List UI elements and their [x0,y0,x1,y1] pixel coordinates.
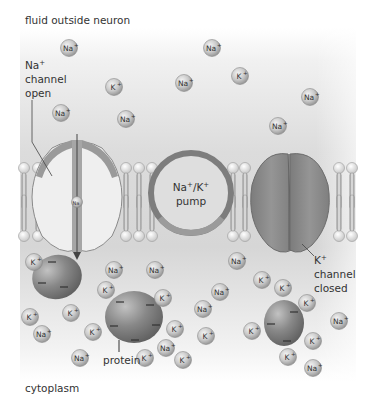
svg-text:+: + [189,77,194,83]
svg-text:+: + [315,91,320,97]
svg-text:+: + [217,42,222,48]
svg-text:+: + [283,120,288,126]
svg-text:+: + [131,113,136,119]
svg-text:+: + [225,286,230,292]
svg-text:Na: Na [149,266,159,275]
svg-text:+: + [74,307,79,313]
potassium-ion: K+ [85,324,102,341]
svg-text:+: + [186,354,191,360]
svg-text:Na: Na [74,354,84,363]
potassium-ion: K+ [299,295,316,312]
svg-text:+: + [318,362,323,368]
svg-text:+: + [66,107,71,113]
potassium-ion: K+ [22,309,39,326]
svg-text:+: + [265,274,270,280]
svg-text:+: + [178,323,183,329]
svg-text:+: + [171,342,176,348]
svg-text:Na: Na [63,44,73,53]
svg-text:+: + [148,352,153,358]
svg-text:Na: Na [120,115,130,124]
pump-label: Na+/K+ pump [168,180,214,208]
potassium-ion: K+ [175,352,192,369]
svg-text:+: + [33,311,38,317]
svg-text:+: + [242,255,247,261]
potassium-ion: K+ [167,321,184,338]
svg-text:+: + [37,256,42,262]
potassium-ion: K+ [244,323,261,340]
svg-text:+: + [243,70,248,76]
potassium-ion: K+ [198,328,215,345]
svg-text:Na: Na [333,317,343,326]
svg-text:+: + [74,42,79,48]
protein-label: protein [103,353,140,367]
potassium-ion: K+ [254,272,271,289]
svg-text:+: + [286,282,291,288]
potassium-ion: K+ [305,333,322,350]
svg-text:+: + [85,352,90,358]
svg-text:Na: Na [197,305,207,314]
svg-text:+: + [47,328,52,334]
svg-text:+: + [255,325,260,331]
potassium-ion: K+ [232,68,249,85]
svg-text:Na: Na [307,364,317,373]
svg-text:+: + [316,335,321,341]
svg-text:Na: Na [73,200,80,206]
svg-text:Na: Na [304,93,314,102]
svg-text:Na: Na [206,44,216,53]
svg-text:Na: Na [178,79,188,88]
svg-text:Na: Na [214,288,224,297]
svg-text:+: + [344,315,349,321]
svg-text:Na: Na [231,257,241,266]
sodium-ion: Na [72,197,83,208]
svg-text:+: + [291,351,296,357]
svg-text:+: + [310,297,315,303]
svg-text:Na: Na [36,330,46,339]
svg-text:Na: Na [108,266,118,275]
svg-text:+: + [96,326,101,332]
potassium-ion: K+ [280,349,297,366]
potassium-ion: K+ [106,79,123,96]
svg-text:+: + [109,284,114,290]
outside-fluid-label: fluid outside neuron [25,13,130,27]
svg-text:Na: Na [160,344,170,353]
potassium-ion: K+ [26,254,43,271]
svg-text:+: + [166,292,171,298]
na-channel-label: Na+ channel open [25,58,67,100]
potassium-ion: K+ [275,280,292,297]
k-channel-closed [251,154,330,253]
svg-text:+: + [208,303,213,309]
svg-text:+: + [209,330,214,336]
potassium-ion: K+ [63,305,80,322]
potassium-ion: K+ [155,290,172,307]
svg-text:Na: Na [272,122,282,131]
svg-text:Na: Na [55,109,65,118]
svg-text:+: + [117,81,122,87]
protein-right [264,300,304,346]
k-channel-label: K+ channel closed [314,253,356,295]
potassium-ion: K+ [98,282,115,299]
svg-text:+: + [160,264,165,270]
svg-text:+: + [119,264,124,270]
cytoplasm-label: cytoplasm [25,381,79,395]
